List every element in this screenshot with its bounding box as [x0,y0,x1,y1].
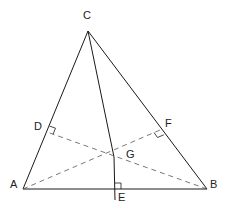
side-bc [88,31,207,189]
label-g: G [126,148,135,160]
triangle-diagram: C A B D E F G [0,0,237,213]
label-e: E [118,191,125,203]
side-ca [23,31,88,189]
label-a: A [10,178,18,190]
label-d: D [34,120,42,132]
altitude-ce [88,31,114,157]
label-f: F [165,117,172,129]
right-angle-mark-f [154,133,164,138]
right-angle-mark-e [115,183,121,189]
label-c: C [83,9,91,21]
label-b: B [210,178,217,190]
altitude-ce-lower [114,157,115,200]
altitude-bd [47,132,207,189]
